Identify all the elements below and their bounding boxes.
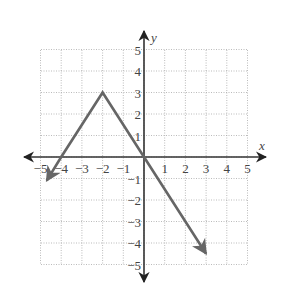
- x-axis-label: x: [258, 138, 265, 153]
- y-tick-label: 1: [135, 129, 142, 144]
- x-tick-label: 2: [182, 161, 189, 176]
- y-tick-label: −3: [127, 215, 141, 230]
- y-tick-label: −4: [127, 236, 141, 251]
- y-tick-label: −5: [127, 258, 141, 273]
- y-tick-label: 5: [135, 43, 142, 58]
- x-tick-label: 3: [203, 161, 210, 176]
- x-tick-label: −2: [96, 161, 110, 176]
- x-tick-label: −3: [75, 161, 89, 176]
- x-tick-label: 4: [224, 161, 231, 176]
- coordinate-plane: −5−4−3−2−112345−5−4−3−2−112345 x y: [0, 0, 281, 294]
- x-tick-label: 1: [161, 161, 168, 176]
- y-tick-label: −2: [127, 193, 141, 208]
- x-tick-label: 5: [244, 161, 251, 176]
- y-tick-label: 2: [135, 107, 142, 122]
- x-tick-label: −5: [34, 161, 48, 176]
- y-axis-label: y: [149, 30, 157, 45]
- y-tick-label: −1: [127, 172, 141, 187]
- y-tick-label: 3: [135, 86, 142, 101]
- y-tick-label: 4: [135, 64, 142, 79]
